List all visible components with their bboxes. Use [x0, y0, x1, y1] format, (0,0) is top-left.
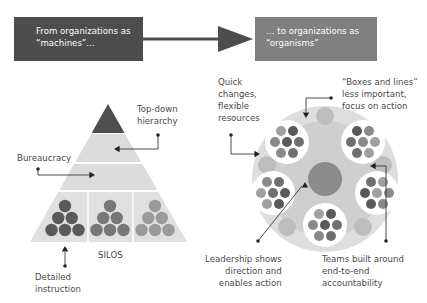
resource-blob: [316, 107, 334, 125]
team-member: [314, 209, 324, 219]
team-member: [378, 177, 388, 187]
pyramid-band-hierarchy: [75, 134, 141, 162]
team-member: [276, 126, 286, 136]
team-member: [320, 220, 330, 230]
team-member: [370, 137, 380, 147]
resource-blob: [354, 218, 372, 236]
arrowhead-icon: [62, 246, 68, 252]
team-member: [366, 177, 376, 187]
team-member: [372, 188, 382, 198]
team-member: [332, 220, 342, 230]
team-member: [384, 188, 394, 198]
quick-changes-connector: [231, 135, 255, 154]
team-member: [280, 188, 290, 198]
detailed-instruction-label: Detailed instruction: [35, 271, 81, 295]
team-member: [262, 177, 272, 187]
quick-changes-label: Quick changes, flexible resources: [218, 76, 260, 124]
machines-label: From organizations as “machines”…: [36, 25, 130, 49]
team-member: [360, 188, 370, 198]
team-member: [366, 199, 376, 209]
bureaucracy-label: Bureaucracy: [17, 152, 71, 164]
organisms-label: … to organizations as “organisms”: [266, 25, 359, 49]
team-member: [270, 137, 280, 147]
team-member: [364, 148, 374, 158]
team-member: [326, 209, 336, 219]
team-member: [352, 126, 362, 136]
resource-blob: [278, 218, 296, 236]
team-member: [274, 199, 284, 209]
organism-diagram: [251, 106, 399, 252]
boxes-lines-label: “Boxes and lines” less important, focus …: [342, 76, 418, 112]
pyramid-apex: [92, 104, 125, 133]
leadership-label: Leadership shows direction and enables a…: [205, 253, 282, 289]
team-member: [256, 188, 266, 198]
top-down-hierarchy-label: Top-down hierarchy: [137, 103, 178, 127]
team-member: [276, 148, 286, 158]
transition-arrow-head: [218, 26, 253, 52]
team-member: [288, 126, 298, 136]
team-member: [364, 126, 374, 136]
teams-label: Teams built around end-to-end accountabi…: [322, 253, 404, 289]
team-member: [378, 199, 388, 209]
team-member: [314, 231, 324, 241]
team-member: [294, 137, 304, 147]
team-member: [308, 220, 318, 230]
team-member: [326, 231, 336, 241]
team-member: [274, 177, 284, 187]
team-member: [288, 148, 298, 158]
team-member: [352, 148, 362, 158]
pyramid-band-bureaucracy: [59, 164, 157, 190]
team-member: [358, 137, 368, 147]
team-member: [346, 137, 356, 147]
leadership-core: [308, 162, 342, 196]
team-member: [282, 137, 292, 147]
team-member: [268, 188, 278, 198]
silos-label: SILOS: [98, 249, 123, 261]
team-member: [262, 199, 272, 209]
